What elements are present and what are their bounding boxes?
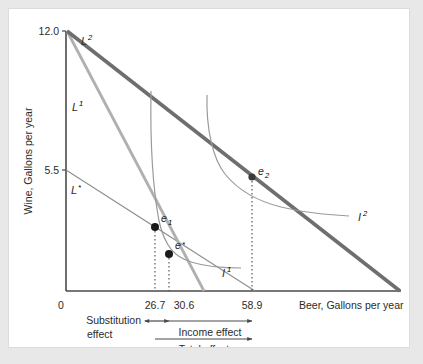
label-L-star-base: L: [71, 184, 77, 196]
label-total-effect: Total effect: [179, 343, 230, 347]
indifference-curve-I1: [151, 91, 241, 268]
y-tick-label-5point5: 5.5: [44, 164, 59, 176]
label-e-star-base: e: [175, 239, 181, 251]
label-e1-sub: 1: [168, 218, 172, 227]
figure-panel: Wine, Gallons per year Beer, Gallons per…: [9, 9, 409, 347]
y-axis-title: Wine, Gallons per year: [22, 107, 34, 214]
label-L2-base: L: [81, 35, 87, 47]
label-L1-sup: 1: [79, 99, 83, 108]
label-e2-base: e: [258, 165, 264, 177]
label-substitution-effect-line1: Substitution: [86, 314, 141, 326]
x-tick-label-26point7: 26.7: [145, 299, 166, 311]
label-L-star: L *: [71, 183, 82, 196]
label-I2-sup: 2: [362, 209, 368, 218]
economics-indifference-curve-chart: Wine, Gallons per year Beer, Gallons per…: [9, 9, 409, 347]
label-substitution-effect-line2: effect: [87, 328, 113, 340]
label-I1-sup: 1: [227, 265, 231, 274]
point-e1-marker: [151, 223, 159, 231]
label-e2-sub: 2: [264, 171, 270, 180]
point-e-star-marker: [165, 250, 173, 258]
label-L1: L 1: [72, 99, 83, 113]
label-L-star-sup: *: [78, 183, 82, 192]
label-e-star-sub: *: [182, 240, 186, 249]
label-L2: L 2: [81, 33, 93, 47]
label-e1-base: e: [161, 212, 167, 224]
x-axis-title: Beer, Gallons per year: [299, 299, 404, 311]
budget-line-L1: [67, 31, 204, 291]
label-I2-base: I: [358, 211, 361, 223]
origin-label: 0: [58, 299, 64, 311]
label-I2: I 2: [358, 209, 368, 223]
y-tick-label-12: 12.0: [39, 25, 60, 37]
figure-frame: Wine, Gallons per year Beer, Gallons per…: [0, 0, 423, 364]
label-I1: I 1: [222, 265, 231, 279]
label-L2-sup: 2: [87, 33, 93, 42]
label-e-star: e *: [175, 239, 186, 251]
x-tick-label-30point6: 30.6: [174, 299, 195, 311]
label-income-effect: Income effect: [179, 326, 242, 338]
label-I1-base: I: [222, 267, 225, 279]
label-e1: e 1: [161, 212, 172, 227]
label-e2: e 2: [258, 165, 270, 180]
point-e2-marker: [248, 173, 255, 180]
budget-line-L2: [67, 31, 400, 291]
x-tick-label-58point9: 58.9: [242, 299, 263, 311]
label-L1-base: L: [72, 101, 78, 113]
